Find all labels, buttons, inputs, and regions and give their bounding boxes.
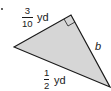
problem-bullet: [1, 8, 3, 10]
leg-right-variable: b: [95, 41, 101, 52]
leg-top-denominator: 10: [22, 19, 33, 29]
hypotenuse-numerator: 1: [44, 68, 49, 78]
leg-top-unit: yd: [37, 12, 49, 23]
hypotenuse-denominator: 2: [44, 81, 49, 91]
hypotenuse-fraction: 1 2: [44, 68, 49, 90]
leg-top-fraction: 3 10: [22, 6, 33, 28]
leg-top-numerator: 3: [25, 6, 30, 16]
hypotenuse-unit: yd: [54, 75, 66, 86]
